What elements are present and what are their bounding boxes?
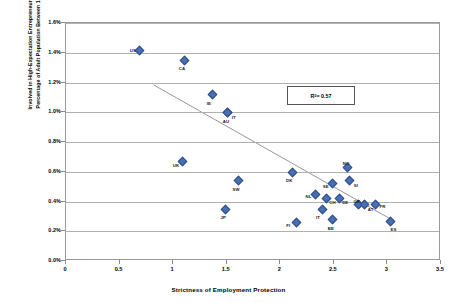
data-point-label: CH bbox=[329, 200, 335, 205]
y-axis-tick-mark bbox=[61, 52, 65, 53]
x-axis-tick-mark bbox=[226, 260, 227, 264]
x-axis-tick-label: 3.5 bbox=[430, 266, 450, 272]
data-point-label: FR bbox=[380, 204, 386, 209]
y-axis-tick-mark bbox=[61, 22, 65, 23]
gridline bbox=[66, 202, 439, 203]
data-point-label: BE bbox=[328, 226, 334, 231]
data-point bbox=[328, 179, 338, 189]
data-point-label: NO bbox=[343, 161, 350, 166]
data-point bbox=[317, 204, 327, 214]
plot-area: USCAIEITAUUKSWDKNOSESINLCHDEGRATFRITBEFI… bbox=[65, 22, 440, 260]
data-point-label: IT bbox=[232, 115, 236, 120]
gridline bbox=[66, 172, 439, 173]
data-point bbox=[208, 90, 218, 100]
data-point bbox=[180, 55, 190, 65]
x-axis-tick-label: 0 bbox=[55, 266, 75, 272]
x-axis-tick-label: 2.5 bbox=[323, 266, 343, 272]
data-point-label: SW bbox=[232, 187, 239, 192]
data-point-label: CA bbox=[179, 66, 185, 71]
x-axis-tick-label: 1.5 bbox=[216, 266, 236, 272]
x-axis-tick-label: 0.5 bbox=[109, 266, 129, 272]
x-axis-tick-mark bbox=[119, 260, 120, 264]
data-point-label: AU bbox=[223, 119, 229, 124]
data-point-label: GR bbox=[353, 199, 360, 204]
gridline bbox=[66, 112, 439, 113]
data-point-label: IE bbox=[207, 101, 211, 106]
data-point-label: FI bbox=[286, 223, 290, 228]
x-axis-tick-mark bbox=[65, 260, 66, 264]
r-squared-annotation: R2 = 0.57 bbox=[287, 86, 355, 105]
y-axis-title-line-1: Involved in High-Expectation Entrepreneu… bbox=[27, 0, 35, 109]
data-point bbox=[328, 215, 338, 225]
data-point bbox=[386, 216, 396, 226]
data-point-label: DE bbox=[342, 200, 348, 205]
y-axis-tick-mark bbox=[61, 82, 65, 83]
y-axis-tick-label: 1.6% bbox=[39, 19, 61, 25]
data-point-label: DK bbox=[286, 178, 292, 183]
y-axis-tick-mark bbox=[61, 230, 65, 231]
data-point bbox=[178, 157, 188, 167]
x-axis-tick-label: 1 bbox=[162, 266, 182, 272]
x-axis-tick-label: 3 bbox=[376, 266, 396, 272]
y-axis-tick-mark bbox=[61, 171, 65, 172]
data-point bbox=[311, 189, 321, 199]
data-point-label: UK bbox=[173, 163, 179, 168]
y-axis-tick-label: 0.2% bbox=[39, 227, 61, 233]
gridline bbox=[66, 231, 439, 232]
y-axis-tick-label: 0.6% bbox=[39, 168, 61, 174]
x-axis-tick-mark bbox=[333, 260, 334, 264]
y-axis-tick-mark bbox=[61, 141, 65, 142]
data-point-label: SE bbox=[323, 184, 329, 189]
x-axis-title: Strictness of Employment Protection bbox=[0, 286, 457, 293]
gridline bbox=[66, 83, 439, 84]
y-axis-tick-mark bbox=[61, 201, 65, 202]
scatter-chart: Involved in High-Expectation Entrepreneu… bbox=[0, 0, 457, 303]
y-axis-tick-label: 0.4% bbox=[39, 198, 61, 204]
data-point bbox=[291, 218, 301, 228]
r-squared-value: = 0.57 bbox=[316, 93, 331, 99]
y-axis-tick-label: 0.0% bbox=[39, 257, 61, 263]
x-axis-tick-mark bbox=[386, 260, 387, 264]
y-axis-tick-label: 0.8% bbox=[39, 138, 61, 144]
plot-inner: USCAIEITAUUKSWDKNOSESINLCHDEGRATFRITBEFI… bbox=[66, 23, 439, 259]
data-point bbox=[287, 167, 297, 177]
trendline bbox=[66, 23, 439, 259]
x-axis-tick-label: 2 bbox=[269, 266, 289, 272]
y-axis-tick-mark bbox=[61, 111, 65, 112]
data-point bbox=[233, 176, 243, 186]
data-point-label: JP bbox=[221, 215, 226, 220]
y-axis-tick-label: 1.4% bbox=[39, 49, 61, 55]
data-point-label: ES bbox=[391, 227, 397, 232]
gridline bbox=[66, 23, 439, 24]
data-point bbox=[221, 204, 231, 214]
gridline bbox=[66, 142, 439, 143]
data-point-label: US bbox=[130, 48, 136, 53]
data-point-label: SI bbox=[354, 183, 358, 188]
data-point-label: IT bbox=[316, 215, 320, 220]
gridline bbox=[66, 53, 439, 54]
y-axis-tick-label: 1.2% bbox=[39, 79, 61, 85]
x-axis-tick-mark bbox=[440, 260, 441, 264]
y-axis-tick-label: 1.0% bbox=[39, 108, 61, 114]
x-axis-tick-mark bbox=[172, 260, 173, 264]
x-axis-tick-mark bbox=[279, 260, 280, 264]
data-point-label: NL bbox=[306, 194, 312, 199]
